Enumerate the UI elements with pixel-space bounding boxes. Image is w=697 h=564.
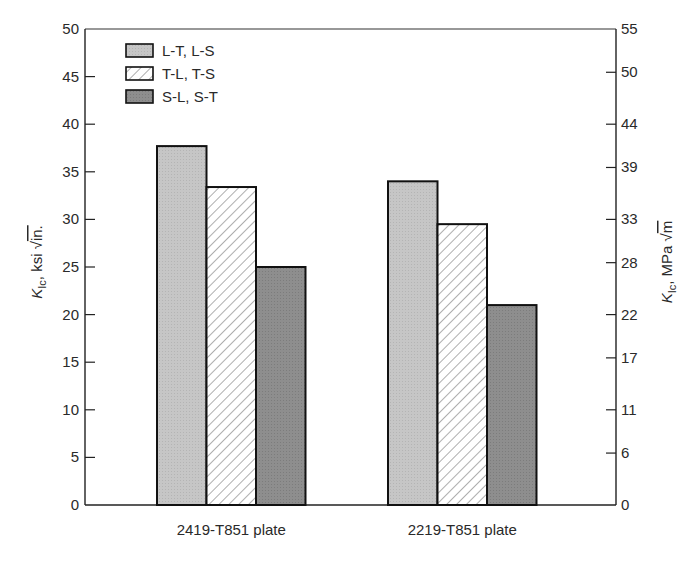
left-tick-label: 10 (62, 401, 79, 418)
category-label: 2419-T851 plate (177, 521, 286, 538)
right-axis-title: KIc, MPa √m (658, 221, 678, 304)
svg-text:KIc, MPa √m: KIc, MPa √m (658, 221, 678, 304)
bar-s-l-s-t (487, 305, 537, 505)
right-tick-label: 50 (621, 63, 638, 80)
left-tick-label: 5 (71, 448, 79, 465)
bar-l-t-l-s (157, 146, 207, 505)
right-tick-label: 44 (621, 115, 638, 132)
bar-t-l-t-s (207, 187, 257, 505)
left-tick-label: 45 (62, 68, 79, 85)
svg-text:KIc, ksi √in.: KIc, ksi √in. (28, 225, 48, 299)
legend-item: T-L, T-S (126, 65, 215, 82)
legend-label: S-L, S-T (162, 88, 218, 105)
left-axis-unit: , ksi (28, 249, 45, 280)
left-axis-ticks: 05101520253035404550 (62, 20, 95, 513)
left-tick-label: 40 (62, 115, 79, 132)
right-tick-label: 28 (621, 254, 638, 271)
right-tick-label: 39 (621, 158, 638, 175)
right-axis-unit: , MPa (658, 241, 675, 284)
left-tick-label: 20 (62, 306, 79, 323)
bars (157, 146, 537, 505)
left-tick-label: 25 (62, 258, 79, 275)
left-tick-label: 35 (62, 163, 79, 180)
bar-group (157, 146, 306, 505)
right-tick-label: 0 (621, 496, 629, 513)
left-axis-title: KIc, ksi √in. (28, 225, 48, 299)
legend-swatch (126, 44, 153, 57)
legend: L-T, L-ST-L, T-SS-L, S-T (126, 42, 218, 105)
bar-chart: 05101520253035404550 0611172228333944505… (0, 0, 697, 564)
legend-swatch (126, 90, 153, 103)
legend-label: T-L, T-S (162, 65, 215, 82)
right-axis-root: m (658, 221, 675, 234)
legend-label: L-T, L-S (162, 42, 215, 59)
left-tick-label: 0 (71, 496, 79, 513)
bar-t-l-t-s (438, 224, 488, 505)
right-tick-label: 11 (621, 401, 637, 418)
right-tick-label: 22 (621, 306, 638, 323)
bar-s-l-s-t (256, 267, 306, 505)
legend-item: L-T, L-S (126, 42, 215, 59)
left-axis-root: in. (28, 225, 45, 241)
right-tick-label: 55 (621, 20, 638, 37)
bar-group (388, 181, 537, 505)
left-tick-label: 50 (62, 20, 79, 37)
right-tick-label: 33 (621, 210, 638, 227)
legend-swatch (126, 67, 153, 80)
legend-item: S-L, S-T (126, 88, 218, 105)
left-tick-label: 15 (62, 353, 79, 370)
bar-l-t-l-s (388, 181, 438, 505)
category-label: 2219-T851 plate (408, 521, 517, 538)
right-tick-label: 6 (621, 444, 629, 461)
left-tick-label: 30 (62, 210, 79, 227)
right-axis-ticks: 06111722283339445055 (606, 20, 638, 513)
category-labels: 2419-T851 plate2219-T851 plate (177, 521, 517, 538)
right-tick-label: 17 (621, 349, 638, 366)
